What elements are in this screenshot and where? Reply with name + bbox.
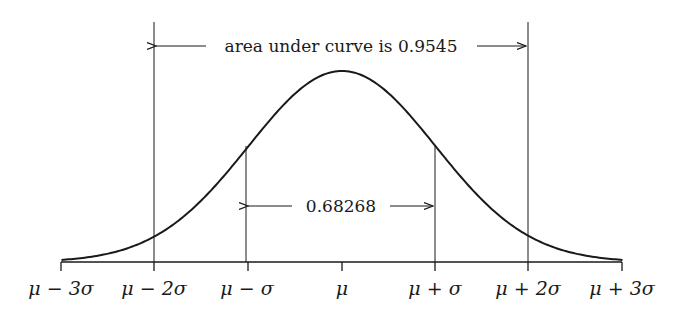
tick-label-mu-minus-2sigma: μ − 2σ (121, 277, 187, 299)
tick-label-mu-minus-sigma: μ − σ (220, 277, 274, 299)
outer-annotation-label: area under curve is 0.9545 (225, 36, 458, 56)
normal-distribution-figure: area under curve is 0.9545 0.68268 μ − 3… (0, 0, 682, 316)
tick-label-mu-plus-2sigma: μ + 2σ (495, 277, 561, 299)
tick-label-mu: μ (336, 277, 348, 299)
x-axis-ticks (61, 262, 622, 271)
tick-label-mu-minus-3sigma: μ − 3σ (28, 277, 94, 299)
x-tick-labels: μ − 3σ μ − 2σ μ − σ μ μ + σ μ + 2σ μ + 3… (28, 277, 655, 299)
normal-density-curve (62, 71, 623, 260)
tick-label-mu-plus-sigma: μ + σ (408, 277, 462, 299)
inner-annotation-label: 0.68268 (306, 196, 376, 216)
tick-label-mu-plus-3sigma: μ + 3σ (589, 277, 655, 299)
figure-canvas: area under curve is 0.9545 0.68268 μ − 3… (0, 0, 682, 316)
